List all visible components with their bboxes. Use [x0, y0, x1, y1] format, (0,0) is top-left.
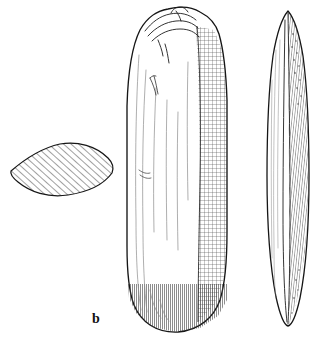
- line-drawing: [0, 0, 324, 343]
- figure-label: b: [92, 311, 100, 327]
- figure-container: b: [0, 0, 324, 343]
- face-view: [125, 7, 235, 337]
